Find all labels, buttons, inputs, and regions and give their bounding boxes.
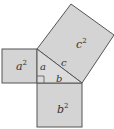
pythagorean-diagram: a2 b2 c2 a b c [0,0,114,129]
side-a-label: a [40,61,46,72]
side-b-label: b [56,73,62,84]
side-c-label: c [61,57,67,68]
